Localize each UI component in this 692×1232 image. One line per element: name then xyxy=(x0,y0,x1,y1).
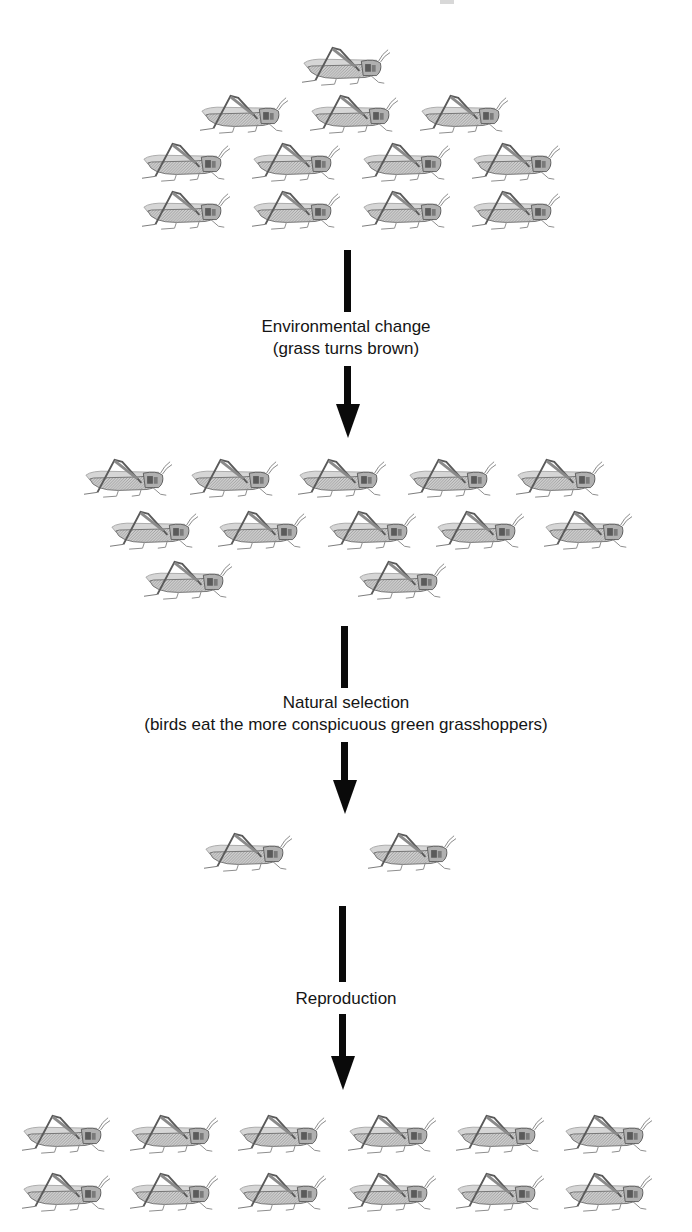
grasshopper-icon xyxy=(126,1170,222,1214)
grasshopper-icon xyxy=(404,456,500,500)
grasshopper-icon xyxy=(140,558,236,602)
transition-2-title: Natural selection xyxy=(0,692,692,713)
grasshopper-icon xyxy=(432,508,528,552)
grasshopper-icon xyxy=(354,558,450,602)
grasshopper-icon xyxy=(560,1112,656,1156)
grasshopper-icon xyxy=(452,1170,548,1214)
grasshopper-icon xyxy=(468,140,564,184)
grasshopper-icon xyxy=(80,456,176,500)
grasshopper-icon xyxy=(298,44,394,88)
grasshopper-icon xyxy=(324,508,420,552)
grasshopper-icon xyxy=(344,1112,440,1156)
grasshopper-icon xyxy=(294,456,390,500)
grasshopper-icon xyxy=(126,1112,222,1156)
transition-1-title: Environmental change xyxy=(0,316,692,337)
grasshopper-icon xyxy=(200,830,296,874)
grasshopper-icon xyxy=(452,1112,548,1156)
grasshopper-icon xyxy=(138,140,234,184)
grasshopper-icon xyxy=(234,1112,330,1156)
grasshopper-icon xyxy=(540,508,636,552)
transition-3-title: Reproduction xyxy=(0,988,692,1009)
arrow-1-lower-shaft xyxy=(344,366,351,406)
arrow-3-lower-shaft xyxy=(339,1014,346,1058)
grasshopper-icon xyxy=(18,1112,114,1156)
grasshopper-icon xyxy=(18,1170,114,1214)
grasshopper-icon xyxy=(196,92,292,136)
grasshopper-icon xyxy=(468,188,564,232)
arrow-down-icon xyxy=(336,404,360,438)
transition-2-subtitle: (birds eat the more conspicuous green gr… xyxy=(0,714,692,735)
grasshopper-icon xyxy=(138,188,234,232)
arrow-1-upper-shaft xyxy=(344,250,351,312)
arrow-2-upper-shaft xyxy=(341,626,348,688)
grasshopper-icon xyxy=(358,188,454,232)
arrow-down-icon xyxy=(333,780,357,814)
transition-1-subtitle: (grass turns brown) xyxy=(0,338,692,359)
grasshopper-icon xyxy=(248,188,344,232)
grasshopper-icon xyxy=(186,456,282,500)
grasshopper-icon xyxy=(416,92,512,136)
arrow-2-lower-shaft xyxy=(341,742,348,782)
grasshopper-icon xyxy=(358,140,454,184)
grasshopper-icon xyxy=(364,830,460,874)
grasshopper-icon xyxy=(344,1170,440,1214)
top-edge-mark xyxy=(440,0,454,4)
grasshopper-icon xyxy=(306,92,402,136)
grasshopper-icon xyxy=(106,508,202,552)
grasshopper-icon xyxy=(512,456,608,500)
grasshopper-icon xyxy=(214,508,310,552)
grasshopper-icon xyxy=(234,1170,330,1214)
grasshopper-icon xyxy=(248,140,344,184)
arrow-3-upper-shaft xyxy=(339,906,346,982)
arrow-down-icon xyxy=(331,1056,355,1090)
grasshopper-icon xyxy=(560,1170,656,1214)
